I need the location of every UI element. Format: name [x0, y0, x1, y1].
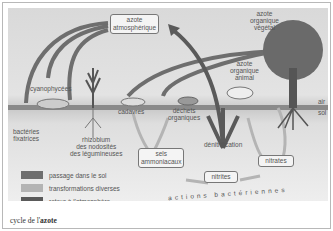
nitrogen-cycle-illustration: azote atmosphérique sels ammoniacaux nit…	[8, 8, 328, 201]
legend-item: transformations diverses	[21, 183, 120, 193]
figure-frame: azote atmosphérique sels ammoniacaux nit…	[2, 2, 331, 229]
legume-plant	[86, 68, 100, 108]
denitrification-label: dénitrification	[204, 141, 242, 148]
legend-swatch	[21, 184, 43, 192]
legend-item: passage dans le sol	[21, 170, 120, 180]
nitrates-box: nitrates	[258, 155, 294, 167]
corpses-label: cadavres	[118, 108, 144, 115]
ammonia-salts-box: sels ammoniacaux	[138, 148, 184, 168]
goat-body	[227, 87, 253, 99]
figure-caption: cycle de l'azote	[10, 216, 57, 225]
legend-item: retour à l'atmosphère	[21, 196, 120, 201]
fixing-bacteria-label: bactéries fixatrices	[13, 128, 39, 142]
soil-label: sol	[318, 109, 326, 116]
nitrites-box: nitrites	[204, 171, 238, 183]
cyanophyceae-label: cyanophycées	[30, 85, 72, 92]
rhizobium-label: rhizobium des nodosités des légumineuses	[70, 136, 122, 157]
legend-swatch	[21, 171, 43, 179]
plant-nitrogen-label: azote organique végétal	[250, 10, 279, 31]
tree-trunk	[289, 68, 297, 108]
organic-waste-label: déchets organiques	[168, 107, 200, 121]
legend-swatch	[21, 197, 43, 201]
legend: passage dans le sol transformations dive…	[21, 170, 120, 201]
animal-nitrogen-label: azote organique animal	[230, 60, 259, 81]
atmospheric-nitrogen-box: azote atmosphérique	[110, 14, 159, 34]
air-label: air	[318, 98, 325, 105]
